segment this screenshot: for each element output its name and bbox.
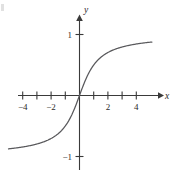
x-tick-label--4: −4 — [18, 102, 28, 112]
y-tick-label-1: 1 — [68, 30, 73, 40]
y-tick-label--1: −1 — [62, 152, 72, 162]
x-axis-label: x — [164, 91, 170, 101]
x-axis-arrowhead — [158, 92, 164, 99]
y-axis-arrowhead — [76, 15, 83, 22]
x-tick-label--2: −2 — [46, 102, 56, 112]
y-axis-label: y — [83, 5, 89, 15]
x-tick-label-4: 4 — [134, 102, 139, 112]
x-tick-label-2: 2 — [106, 102, 111, 112]
coordinate-plot: y x 1 −1 −4 −2 2 4 — [0, 0, 173, 178]
graph-figure: y x 1 −1 −4 −2 2 4 — [0, 0, 173, 178]
